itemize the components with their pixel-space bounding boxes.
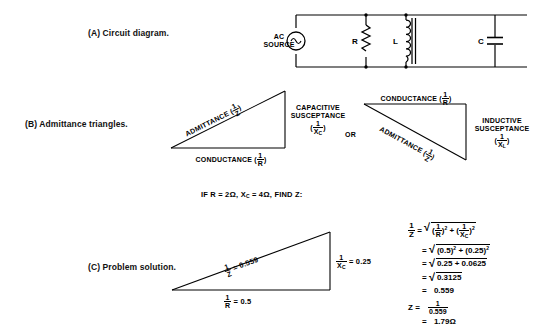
equation-line-3: = 0.25 + 0.0625 [422,258,487,268]
node-dot-r-bottom [364,65,367,68]
left-triangle-vertical-label: CAPACITIVE SUSCEPTANCE (1XC) [289,104,347,137]
ac-source-label: AC SOURCE [262,33,296,49]
problem-statement: IF R = 2Ω, XC = 4Ω, FIND Z: [201,190,303,200]
capacitor-icon [487,38,503,45]
figure-root: (A) Circuit diagram. (B) Admittance tria… [0,0,541,332]
iron-core-inductor-icon [406,18,416,64]
capacitor-label: C [478,37,484,46]
solution-base-label: 1R = 0.5 [224,294,251,310]
equation-line-6: Z = 10.559 [408,300,448,316]
right-triangle-vertical-label: INDUCTIVE SUSCEPTANCE (1XL) [471,117,533,150]
resistor-label: R [352,37,358,46]
equation-line-5: = 0.559 [422,286,454,295]
solution-vertical-label: 1XC = 0.25 [336,254,371,271]
node-dot-r-top [364,13,367,16]
right-triangle-top-label: CONDUCTANCE (1R) [364,91,468,107]
circuit-diagram [287,13,527,68]
left-triangle-base-label: CONDUCTANCE (1R) [178,152,284,168]
resistor-zigzag-icon [362,25,370,51]
node-dot-l-top [404,13,407,16]
or-label: OR [345,131,356,139]
equation-line-2: = (0.5)2 + (0.25)2 [422,244,490,255]
node-dot-l-bottom [404,65,407,68]
inductor-label: L [393,37,398,46]
equation-line-7: = 1.79Ω [422,317,456,326]
equation-line-1: 1Z = (1R)2 + (1XC)2 [408,222,476,240]
equation-line-4: = 0.3125 [422,272,462,282]
